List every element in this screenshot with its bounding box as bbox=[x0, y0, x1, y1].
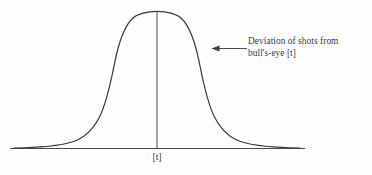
arrow-left-icon bbox=[212, 45, 220, 51]
annotation-label: Deviation of shots from bull's-eye [t] bbox=[248, 36, 372, 59]
bell-curve-plot bbox=[0, 0, 372, 175]
annotation-line-1: Deviation of shots from bbox=[248, 36, 372, 48]
annotation-line-2: bull's-eye [t] bbox=[248, 48, 372, 60]
figure-container: Deviation of shots from bull's-eye [t] [… bbox=[0, 0, 372, 175]
axis-tick-label-t: [t] bbox=[140, 151, 174, 163]
